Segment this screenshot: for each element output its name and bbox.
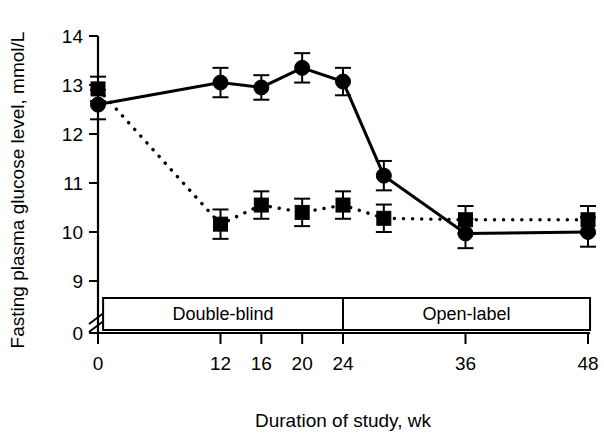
data-point-square <box>336 198 350 212</box>
data-point-square <box>295 205 309 219</box>
data-point-circle <box>213 75 228 90</box>
x-axis-title: Duration of study, wk <box>255 410 432 431</box>
phase-label-double-blind: Double-blind <box>173 304 274 324</box>
data-point-square <box>214 217 228 231</box>
x-tick-label-20: 20 <box>292 353 313 374</box>
data-point-square <box>459 213 473 227</box>
x-tick-label-48: 48 <box>577 353 598 374</box>
x-tick-label-16: 16 <box>251 353 272 374</box>
data-point-square <box>91 82 105 96</box>
y-axis-title: Fasting plasma glucose level, mmol/L <box>7 32 28 349</box>
y-tick-label-9: 9 <box>72 271 83 292</box>
x-tick-label-24: 24 <box>332 353 354 374</box>
x-tick-label-36: 36 <box>455 353 476 374</box>
y-tick-label-13: 13 <box>62 75 83 96</box>
fasting-plasma-glucose-chart: 1413121110900121620243648Duration of stu… <box>0 0 604 441</box>
phase-label-open-label: Open-label <box>422 304 510 324</box>
y-tick-label-0: 0 <box>72 323 83 344</box>
y-tick-label-12: 12 <box>62 124 83 145</box>
series-dotted-square-series <box>90 77 596 239</box>
data-point-circle <box>376 168 391 183</box>
y-tick-label-10: 10 <box>62 222 83 243</box>
data-point-circle <box>295 60 310 75</box>
x-tick-label-0: 0 <box>93 353 104 374</box>
data-point-square <box>377 211 391 225</box>
x-tick-label-12: 12 <box>210 353 231 374</box>
data-point-circle <box>336 74 351 89</box>
data-point-square <box>254 198 268 212</box>
data-point-circle <box>254 80 269 95</box>
data-point-square <box>581 213 595 227</box>
y-tick-label-11: 11 <box>63 173 83 194</box>
chart-canvas: 1413121110900121620243648Duration of stu… <box>0 0 604 441</box>
y-tick-label-14: 14 <box>62 26 84 47</box>
